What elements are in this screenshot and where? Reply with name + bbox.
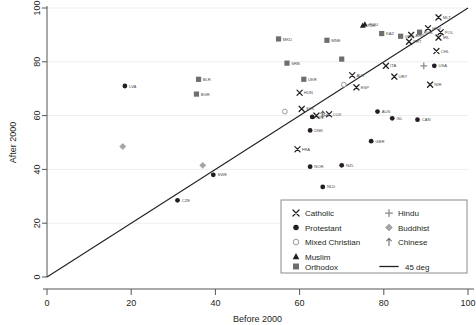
data-point[interactable]: KAZ xyxy=(379,31,394,36)
y-tick-label: 100 xyxy=(32,0,42,15)
data-point-label: CHL xyxy=(441,49,450,54)
data-point[interactable]: USA xyxy=(432,63,447,68)
data-point[interactable]: CHL xyxy=(434,48,450,53)
data-point-label: LVA xyxy=(129,84,136,89)
data-point[interactable]: GBR xyxy=(369,139,385,144)
marker-protestant xyxy=(432,63,437,68)
y-tick-label: 0 xyxy=(32,274,42,279)
marker-mixed xyxy=(341,82,346,87)
data-point-label: ESP xyxy=(361,85,370,90)
data-point[interactable]: NZL xyxy=(339,163,354,168)
marker-catholic xyxy=(434,48,439,53)
data-point-label: KAZ xyxy=(386,31,395,36)
marker-catholic xyxy=(436,35,441,40)
data-point[interactable]: HUN xyxy=(297,90,313,95)
data-point[interactable]: ESP xyxy=(354,85,369,90)
marker-protestant xyxy=(308,128,313,133)
data-point[interactable]: LVA xyxy=(122,84,136,89)
data-point[interactable]: SWE xyxy=(211,172,227,177)
data-point[interactable]: DNK xyxy=(308,128,324,133)
marker-protestant xyxy=(308,164,313,169)
marker-catholic xyxy=(406,39,411,44)
legend: CatholicProtestantMixed ChristianMuslimO… xyxy=(281,200,467,273)
data-point-label: CAN xyxy=(422,117,431,122)
data-point-label: NZL xyxy=(346,163,355,168)
data-point-label: LUX xyxy=(333,112,341,117)
data-point-label: SWE xyxy=(217,172,227,177)
data-point[interactable]: FIN xyxy=(310,115,323,120)
data-point[interactable]: SRB xyxy=(284,61,300,66)
data-point-label: FIN xyxy=(316,115,323,120)
marker-catholic xyxy=(383,63,388,68)
data-point[interactable]: MLT xyxy=(436,15,451,20)
data-point[interactable] xyxy=(200,162,206,168)
data-point[interactable]: NOR xyxy=(308,164,324,169)
x-tick-label: 60 xyxy=(295,298,305,308)
data-point[interactable]: IRL xyxy=(436,35,450,40)
marker-protestant xyxy=(375,109,380,114)
marker-protestant xyxy=(320,184,325,189)
data-point[interactable]: CZE xyxy=(175,198,190,203)
data-point[interactable]: MNE xyxy=(324,38,340,43)
data-point[interactable]: TUR xyxy=(360,22,376,28)
x-tick-label: 40 xyxy=(210,298,220,308)
marker-protestant xyxy=(339,163,344,168)
scatter-chart: 020406080100020406080100Before 2000After… xyxy=(0,0,476,325)
data-point[interactable]: UKR xyxy=(301,77,317,82)
data-point-label: ISL xyxy=(396,116,403,121)
data-point-label: DNK xyxy=(314,128,323,133)
data-point-label: NLD xyxy=(327,184,335,189)
marker-orthodox xyxy=(324,38,329,43)
data-point[interactable] xyxy=(282,109,287,114)
data-point[interactable] xyxy=(341,82,346,87)
data-point-label: SVK xyxy=(306,106,315,111)
legend-marker-orthodox xyxy=(293,264,299,270)
marker-protestant xyxy=(175,198,180,203)
x-tick-label: 20 xyxy=(126,298,136,308)
data-point[interactable]: PRT xyxy=(406,39,422,44)
data-point-label: AUS xyxy=(382,109,391,114)
data-point[interactable]: BLR xyxy=(196,77,211,82)
legend-label-orthodox: Orthodox xyxy=(305,263,338,272)
data-point[interactable]: URY xyxy=(392,74,408,79)
marker-protestant xyxy=(415,117,420,122)
y-tick-label: 20 xyxy=(32,218,42,228)
data-point-label: NOR xyxy=(314,164,323,169)
data-point-label: HRV xyxy=(432,26,441,31)
data-point-label: MKD xyxy=(283,37,292,42)
y-tick-label: 40 xyxy=(32,164,42,174)
data-point[interactable] xyxy=(421,63,427,69)
data-point[interactable]: BGR xyxy=(194,91,210,96)
marker-catholic xyxy=(295,147,300,152)
data-point[interactable]: SVK xyxy=(299,106,314,111)
data-point[interactable] xyxy=(120,144,126,150)
y-axis-title: After 2000 xyxy=(8,122,18,164)
marker-protestant xyxy=(390,116,395,121)
marker-catholic xyxy=(297,90,302,95)
marker-protestant xyxy=(122,84,127,89)
plot-svg: 020406080100020406080100Before 2000After… xyxy=(0,0,476,325)
data-point[interactable]: AUS xyxy=(375,109,390,114)
data-point[interactable]: FRA xyxy=(295,147,310,152)
data-point-label: USA xyxy=(439,63,448,68)
marker-mixed xyxy=(282,109,287,114)
data-point[interactable]: AUT xyxy=(350,73,366,78)
data-point[interactable]: CAN xyxy=(415,117,430,122)
marker-buddhist xyxy=(200,162,206,168)
legend-label-catholic: Catholic xyxy=(305,209,334,218)
marker-catholic xyxy=(354,85,359,90)
marker-protestant xyxy=(211,172,216,177)
marker-catholic xyxy=(428,82,433,87)
marker-orthodox xyxy=(301,77,306,82)
data-point[interactable]: ITA xyxy=(383,63,396,68)
data-point[interactable]: NLD xyxy=(320,184,335,189)
data-point[interactable]: MKD xyxy=(276,36,292,41)
data-point-label: PRT xyxy=(413,39,422,44)
data-point-label: TUR xyxy=(367,23,376,28)
data-point-label: BGR xyxy=(201,92,210,97)
data-point-label: NIR xyxy=(434,82,441,87)
marker-catholic xyxy=(392,74,397,79)
data-point[interactable]: NIR xyxy=(428,82,442,87)
data-point[interactable] xyxy=(339,57,344,62)
data-point[interactable]: ISL xyxy=(390,116,404,121)
